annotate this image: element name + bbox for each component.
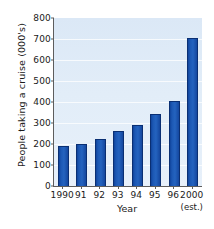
- x-axis-tick-label: 96: [167, 190, 179, 200]
- x-axis-tick-mark: [173, 186, 174, 189]
- y-axis-tick-label: 600: [33, 55, 51, 65]
- y-axis-tick-label: 500: [33, 76, 51, 86]
- y-axis-title: People taking a cruise (000's): [16, 0, 30, 190]
- cruise-passengers-bar-chart: People taking a cruise (000's) 010020030…: [0, 0, 214, 229]
- bar: [113, 131, 124, 186]
- y-axis-tick-label: 700: [33, 34, 51, 44]
- bar: [150, 114, 161, 186]
- y-axis-tick-mark: [51, 144, 54, 145]
- x-axis-tick-label: 94: [130, 190, 142, 200]
- x-axis-tick-mark: [155, 186, 156, 189]
- x-axis-tick-mark: [192, 186, 193, 189]
- x-axis-tick-sublabel: (est.): [181, 202, 203, 212]
- y-axis-tick-label: 200: [33, 139, 51, 149]
- y-axis-tick-label: 400: [33, 97, 51, 107]
- y-axis-tick-mark: [51, 102, 54, 103]
- plot-area: 0100200300400500600700800: [53, 18, 202, 186]
- gridline: [54, 81, 202, 82]
- bar: [95, 139, 106, 186]
- x-axis-tick-mark: [136, 186, 137, 189]
- y-axis-tick-label: 100: [33, 160, 51, 170]
- x-axis-tick-mark: [118, 186, 119, 189]
- y-axis-tick-mark: [51, 39, 54, 40]
- bar: [76, 144, 87, 186]
- bar: [187, 38, 198, 186]
- x-axis-tick-mark: [81, 186, 82, 189]
- y-axis-tick-mark: [51, 123, 54, 124]
- y-axis-tick-label: 300: [33, 118, 51, 128]
- bar: [132, 125, 143, 186]
- x-axis-tick-label: 95: [149, 190, 161, 200]
- x-axis-tick-label: 93: [112, 190, 124, 200]
- y-axis-tick-mark: [51, 165, 54, 166]
- x-axis-tick-label: 1990: [51, 190, 74, 200]
- y-axis-tick-mark: [51, 60, 54, 61]
- y-axis-tick-mark: [51, 81, 54, 82]
- x-axis-line: [53, 186, 202, 187]
- bar: [58, 146, 69, 186]
- gridline: [54, 60, 202, 61]
- bar: [169, 101, 180, 186]
- y-axis-tick-mark: [51, 18, 54, 19]
- gridline: [54, 39, 202, 40]
- x-axis-tick-label: 92: [93, 190, 105, 200]
- x-axis-title: Year: [53, 203, 201, 214]
- x-axis-tick-label: 91: [75, 190, 87, 200]
- x-axis-tick-mark: [99, 186, 100, 189]
- y-axis-tick-label: 800: [33, 13, 51, 23]
- x-axis-tick-label: 2000: [180, 190, 203, 200]
- x-axis-tick-mark: [62, 186, 63, 189]
